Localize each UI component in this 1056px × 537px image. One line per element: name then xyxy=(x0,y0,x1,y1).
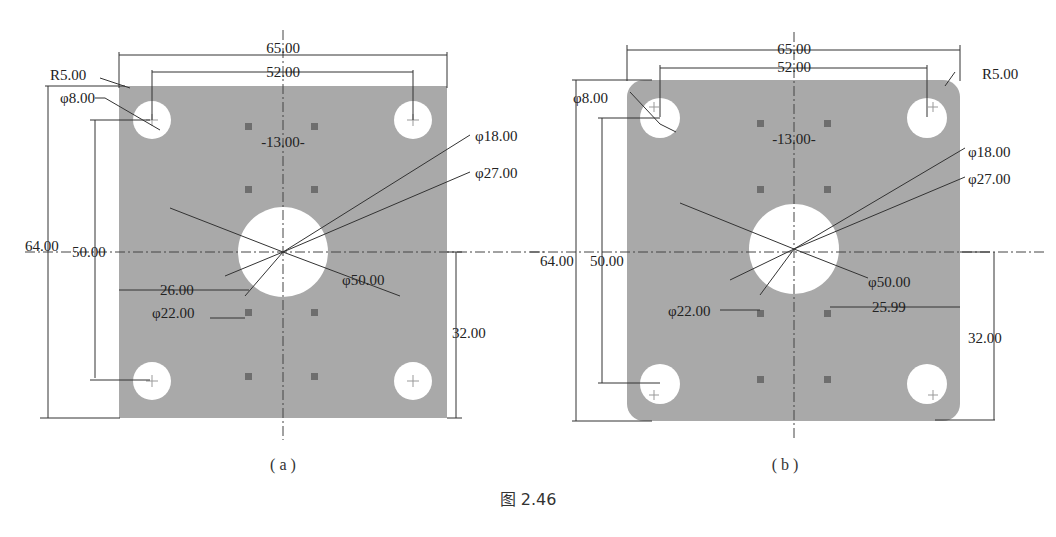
corner-hole-br-b xyxy=(907,364,947,404)
dim-corner-radius-a: R5.00 xyxy=(50,67,86,83)
dim-square-spacing-a: -13.00- xyxy=(261,134,305,150)
subfigure-label-b: ( b ) xyxy=(772,456,799,474)
dim-hole-spacing-x-b: 52.00 xyxy=(777,59,811,75)
dim-small-hole-b: φ8.00 xyxy=(573,90,608,106)
dim-dia-18-b: φ18.00 xyxy=(968,144,1010,160)
dim-half-height-b: 32.00 xyxy=(968,330,1002,346)
subfigure-label-a: ( a ) xyxy=(270,456,296,474)
dim-width-total-b: 65.00 xyxy=(777,41,811,57)
dim-width-total-a: 65.00 xyxy=(266,40,300,56)
dim-hole-spacing-x-a: 52.00 xyxy=(266,64,300,80)
dim-dia-27-b: φ27.00 xyxy=(968,171,1010,187)
dim-offset-x-b: 25.99 xyxy=(872,299,906,315)
dim-small-hole-a: φ8.00 xyxy=(60,90,95,106)
dim-hole-spacing-y-b: 50.00 xyxy=(590,253,624,269)
dim-offset-x-a: 26.00 xyxy=(160,282,194,298)
dim-dia-50-a: φ50.00 xyxy=(342,272,384,288)
dim-dia-22-a: φ22.00 xyxy=(152,305,194,321)
dim-dia-22-b: φ22.00 xyxy=(668,303,710,319)
dim-hole-spacing-y-a: 50.00 xyxy=(72,244,106,260)
figure-canvas: 65.00 52.00 R5.00 φ8.00 -13.00- φ18.00 φ… xyxy=(0,0,1056,537)
dim-dia-27-a: φ27.00 xyxy=(475,165,517,181)
drawing-a xyxy=(25,30,545,440)
dim-height-total-b: 64.00 xyxy=(540,253,574,269)
dim-dia-18-a: φ18.00 xyxy=(475,128,517,144)
dim-square-spacing-b: -13.00- xyxy=(772,131,816,147)
dim-corner-radius-b: R5.00 xyxy=(982,66,1018,82)
dim-height-total-a: 64.00 xyxy=(25,238,59,254)
corner-hole-bl-b xyxy=(640,364,680,404)
figure-caption: 图 2.46 xyxy=(500,490,557,509)
dim-dia-50-b: φ50.00 xyxy=(868,274,910,290)
dim-half-height-a: 32.00 xyxy=(452,325,486,341)
